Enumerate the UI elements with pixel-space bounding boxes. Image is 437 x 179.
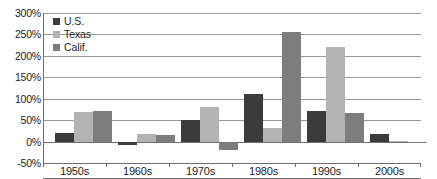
y-tick-label: 250% [3, 29, 41, 39]
legend-swatch-icon [53, 18, 60, 25]
bar-texas-1970s [200, 107, 219, 142]
y-axis: 300% 250% 200% 150% 100% 50% 0% -50% [0, 13, 41, 163]
bar-texas-2000s [389, 141, 408, 142]
bar-us-2000s [370, 134, 389, 142]
bar-us-1950s [55, 133, 74, 142]
legend-item-us: U.S. [53, 15, 105, 27]
bar-calif-1950s [93, 111, 112, 142]
legend-swatch-icon [53, 44, 60, 51]
bar-us-1980s [244, 94, 263, 142]
y-tick-label: 100% [3, 94, 41, 104]
x-axis: 1950s 1960s 1970s 1980s 1990s 2000s [43, 163, 421, 179]
x-tick-label: 2000s [358, 165, 421, 178]
bar-us-1960s [118, 142, 137, 145]
legend: U.S. Texas Calif. [52, 13, 107, 56]
bar-group-1960s [118, 13, 181, 163]
bar-us-1970s [181, 120, 200, 142]
y-tick-label: 50% [3, 115, 41, 125]
y-tick-label: 300% [3, 8, 41, 18]
y-tick-label: 200% [3, 51, 41, 61]
bar-group-1990s [307, 13, 370, 163]
bar-calif-2000s [408, 142, 427, 143]
x-tick-label: 1990s [295, 165, 358, 178]
bar-texas-1980s [263, 128, 282, 142]
legend-swatch-icon [53, 31, 60, 38]
x-tick-label: 1960s [106, 165, 169, 178]
x-tick-label: 1950s [43, 165, 106, 178]
bar-texas-1990s [326, 47, 345, 142]
bar-group-1980s [244, 13, 307, 163]
legend-label: U.S. [64, 16, 84, 27]
bar-texas-1960s [137, 134, 156, 142]
bar-calif-1980s [282, 32, 301, 143]
legend-label: Texas [64, 29, 91, 40]
y-tick-label: -50% [3, 158, 41, 168]
bar-chart: 300% 250% 200% 150% 100% 50% 0% -50% [0, 0, 437, 179]
bar-calif-1970s [219, 142, 238, 150]
x-tick-label: 1980s [232, 165, 295, 178]
bar-us-1990s [307, 111, 326, 142]
legend-item-calif: Calif. [53, 41, 105, 53]
y-tick-label: 0% [3, 137, 41, 147]
bar-group-1970s [181, 13, 244, 163]
legend-label: Calif. [64, 42, 87, 53]
legend-item-texas: Texas [53, 28, 105, 40]
bar-texas-1950s [74, 112, 93, 142]
y-tick-label: 150% [3, 72, 41, 82]
bar-group-2000s [370, 13, 433, 163]
bar-calif-1960s [156, 135, 175, 142]
x-tick-label: 1970s [169, 165, 232, 178]
bar-calif-1990s [345, 113, 364, 143]
